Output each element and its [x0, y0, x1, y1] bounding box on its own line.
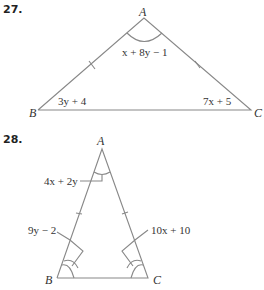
- triangle-28: A B C 4x + 2y 9y − 2 10x + 10: [28, 134, 191, 287]
- angle-label-a-27: x + 8y − 1: [122, 46, 167, 58]
- angle-arc-a-28: [94, 172, 110, 175]
- vertex-b-28: B: [45, 273, 53, 287]
- vertex-c-27: C: [254, 106, 263, 120]
- tick-mark-ab-28: [76, 213, 82, 214]
- angle-arc-a-27: [127, 33, 162, 42]
- triangle-27: A B C x + 8y − 1 3y + 4 7x + 5: [29, 5, 263, 120]
- vertex-b-27: B: [29, 106, 37, 120]
- angle-label-a-28: 4x + 2y: [44, 175, 78, 187]
- angle-arc-c-outer-28: [131, 265, 143, 278]
- triangle-28-sides: [57, 149, 148, 278]
- angle-label-c-28: 10x + 10: [151, 224, 191, 236]
- angle-label-c-27: 7x + 5: [203, 95, 232, 107]
- vertex-a-28: A: [96, 134, 105, 148]
- tick-mark-ac-27: [195, 61, 200, 68]
- angle-label-b-27: 3y + 4: [58, 95, 87, 107]
- diagram-canvas: A B C x + 8y − 1 3y + 4 7x + 5 A B C 4x …: [0, 0, 264, 290]
- vertex-a-27: A: [138, 5, 147, 19]
- angle-label-b-28: 9y − 2: [28, 224, 56, 236]
- angle-arc-b-outer-28: [62, 265, 74, 278]
- vertex-c-28: C: [153, 273, 162, 287]
